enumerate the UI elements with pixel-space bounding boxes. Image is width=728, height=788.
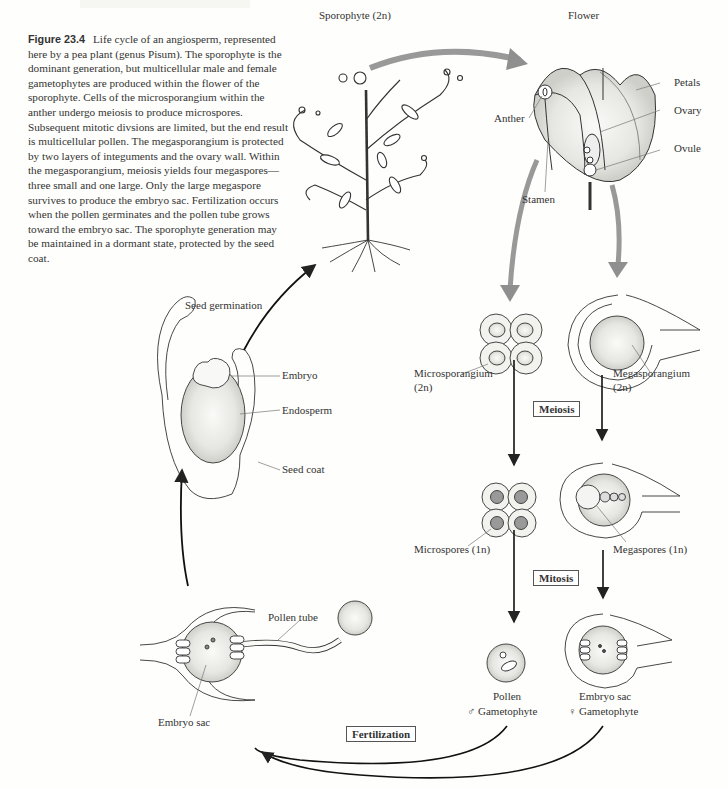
label-microsporangium: Microsporangium bbox=[414, 367, 493, 380]
label-petals: Petals bbox=[674, 76, 700, 89]
label-megasporangium: Megasporangium bbox=[613, 367, 690, 380]
label-ovary: Ovary bbox=[674, 104, 702, 117]
label-female-gametophyte: ♀ Gametophyte bbox=[568, 705, 638, 718]
embryo-sac-right bbox=[565, 614, 672, 688]
microsporangium bbox=[480, 314, 542, 374]
embryo-sac-left bbox=[140, 601, 372, 701]
label-ovule: Ovule bbox=[674, 142, 701, 155]
label-sporophyte: Sporophyte (2n) bbox=[319, 9, 391, 22]
label-endosperm: Endosperm bbox=[282, 404, 332, 417]
label-male-gametophyte: ♂ Gametophyte bbox=[467, 705, 537, 718]
pollen-grain bbox=[487, 644, 525, 682]
label-anther: Anther bbox=[494, 112, 525, 125]
stage-meiosis: Meiosis bbox=[533, 401, 580, 417]
label-megaspores: Megaspores (1n) bbox=[613, 543, 687, 556]
label-megasporangium-ploidy: (2n) bbox=[613, 381, 631, 394]
seed bbox=[158, 297, 256, 499]
label-seed-germination: Seed germination bbox=[185, 299, 262, 312]
label-microsporangium-ploidy: (2n) bbox=[414, 381, 432, 394]
label-stamen: Stamen bbox=[522, 193, 555, 206]
label-pollen: Pollen bbox=[493, 690, 521, 703]
stage-mitosis: Mitosis bbox=[533, 570, 579, 586]
microspores bbox=[482, 483, 536, 537]
label-embryo-sac-right: Embryo sac bbox=[579, 690, 631, 703]
megaspores bbox=[560, 463, 680, 538]
label-microspores: Microspores (1n) bbox=[414, 543, 490, 556]
label-seed-coat: Seed coat bbox=[282, 463, 324, 476]
label-embryo: Embryo bbox=[282, 369, 317, 382]
stage-fertilization: Fertilization bbox=[346, 726, 416, 742]
label-flower: Flower bbox=[568, 9, 599, 22]
label-pollen-tube: Pollen tube bbox=[268, 611, 318, 624]
sporophyte-plant bbox=[294, 69, 463, 272]
label-embryo-sac-left: Embryo sac bbox=[158, 716, 210, 729]
life-cycle-diagram bbox=[0, 0, 728, 788]
